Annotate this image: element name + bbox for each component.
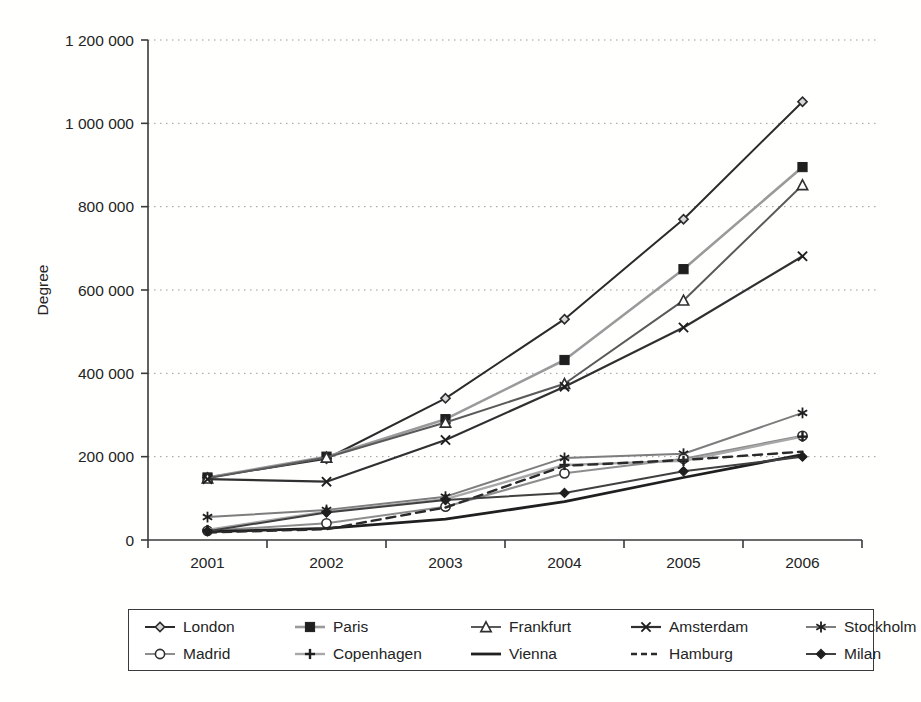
y-axis-title: Degree [34,265,51,316]
x-tick-label: 2006 [785,554,819,571]
plot-canvas: 0200 000400 000600 000800 0001 000 0001 … [0,0,883,600]
data-point-marker [798,452,807,461]
series-madrid [203,431,807,535]
data-point-marker [560,355,569,364]
legend-label: Stockholm [844,619,916,635]
data-point-marker [560,469,569,478]
series-copenhagen [202,432,807,536]
legend-label: Milan [844,646,881,662]
legend-marker-glyph [305,622,314,631]
legend-marker-asterisk [804,619,838,635]
legend-marker-triangle-open [469,619,503,635]
legend-marker-glyph [305,648,315,658]
chart-legend: LondonParisFrankfurtAmsterdamStockholmMa… [128,609,874,671]
legend-item-hamburg[interactable]: Hamburg [629,646,804,662]
data-series [202,97,807,536]
legend-label: Paris [333,619,368,635]
data-point-marker [798,252,807,261]
data-point-marker [560,488,569,497]
y-tick-label: 0 [125,532,134,549]
x-tick-label: 2005 [666,554,700,571]
series-amsterdam [203,252,807,487]
x-tick-label: 2003 [428,554,462,571]
legend-marker-glyph [816,649,825,658]
line-chart-figure: 0200 000400 000600 000800 0001 000 0001 … [0,0,883,600]
legend-item-stockholm[interactable]: Stockholm [804,619,921,635]
series-line [208,167,803,477]
x-tick-label: 2001 [190,554,224,571]
legend-item-copenhagen[interactable]: Copenhagen [293,646,469,662]
legend-item-amsterdam[interactable]: Amsterdam [629,619,804,635]
series-line [208,437,803,530]
legend-marker-none [629,646,663,662]
legend-marker-glyph [155,649,164,658]
legend-label: Copenhagen [333,646,422,662]
data-point-marker [797,180,807,190]
legend-item-paris[interactable]: Paris [293,619,469,635]
legend-item-frankfurt[interactable]: Frankfurt [469,619,629,635]
legend-marker-x-cross [629,619,663,635]
data-point-marker [798,408,807,419]
series-line [208,413,803,517]
legend-marker-diamond-filled [804,646,838,662]
y-axis-ticks: 0200 000400 000600 000800 0001 000 0001 … [65,32,148,549]
legend-item-milan[interactable]: Milan [804,646,921,662]
legend-item-vienna[interactable]: Vienna [469,646,629,662]
x-tick-label: 2004 [547,554,582,571]
y-tick-label: 1 200 000 [65,32,134,49]
legend-marker-square-filled [293,619,327,635]
legend-label: Frankfurt [509,619,571,635]
series-line [208,457,803,532]
legend-marker-plus [293,646,327,662]
legend-label: Vienna [509,646,557,662]
legend-item-london[interactable]: London [143,619,293,635]
x-axis-ticks: 200120022003200420052006 [148,540,862,571]
legend-marker-diamond-open [143,619,177,635]
gridlines [148,40,878,457]
legend-label: Amsterdam [669,619,748,635]
series-line [208,455,803,532]
x-tick-label: 2002 [309,554,343,571]
legend-marker-glyph [155,622,164,631]
series-paris [203,162,807,482]
legend-marker-circle-open [143,646,177,662]
y-tick-label: 800 000 [78,198,134,215]
data-point-marker [798,162,807,171]
legend-label: Madrid [183,646,230,662]
series-line [208,185,803,478]
legend-item-madrid[interactable]: Madrid [143,646,293,662]
data-point-marker [679,265,688,274]
data-point-marker [322,519,331,528]
series-vienna [208,455,803,532]
y-axis-title-label: Degree [34,265,51,316]
y-tick-label: 1 000 000 [65,115,134,132]
series-london [203,97,807,482]
series-stockholm [203,408,807,523]
legend-label: London [183,619,235,635]
y-tick-label: 400 000 [78,365,134,382]
series-frankfurt [202,180,807,483]
data-point-marker [679,323,688,332]
legend-label: Hamburg [669,646,733,662]
data-point-marker [679,467,688,476]
legend-items: LondonParisFrankfurtAmsterdamStockholmMa… [129,610,873,670]
y-tick-label: 200 000 [78,448,134,465]
y-tick-label: 600 000 [78,282,134,299]
legend-marker-none [469,646,503,662]
